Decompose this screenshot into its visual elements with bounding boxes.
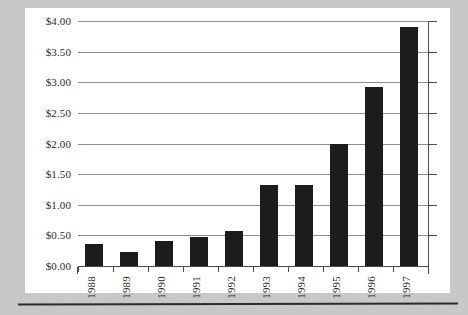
bar (225, 231, 243, 266)
right-axis-tick (428, 113, 437, 114)
right-axis-tick (428, 235, 437, 236)
page-background: $0.00$0.50$1.00$1.50$2.00$2.50$3.00$3.50… (0, 0, 468, 315)
x-axis-tick-label: 1993 (260, 276, 272, 299)
right-axis-tick (428, 205, 437, 206)
x-axis-tick (78, 267, 79, 272)
y-axis-tick-label: $4.00 (46, 15, 71, 27)
x-axis-tick (183, 267, 184, 272)
x-axis-tick-label: 1990 (155, 276, 167, 299)
bottom-horizontal-rule (18, 303, 458, 306)
x-axis-tick (218, 267, 219, 272)
x-axis-right-endcap (428, 267, 429, 274)
x-axis-tick-label: 1989 (120, 276, 132, 299)
right-axis-tick (428, 174, 437, 175)
bar (330, 144, 348, 267)
y-axis-tick-label: $3.00 (46, 76, 71, 88)
right-axis-tick (428, 82, 437, 83)
bar (260, 185, 278, 266)
x-axis-tick (393, 267, 394, 272)
y-axis-tick-label: $0.00 (46, 260, 71, 272)
bar (365, 87, 383, 266)
bars-group (78, 21, 428, 266)
bar-chart-plot-area: $0.00$0.50$1.00$1.50$2.00$2.50$3.00$3.50… (78, 21, 428, 266)
x-axis-tick-label: 1996 (365, 276, 377, 299)
x-axis-tick-label: 1994 (295, 276, 307, 299)
bar (400, 27, 418, 266)
x-axis-tick-label: 1991 (190, 276, 202, 299)
right-axis-tick (428, 144, 437, 145)
x-axis-tick-label: 1992 (225, 276, 237, 299)
y-axis-tick-label: $2.00 (46, 138, 71, 150)
bar (295, 185, 313, 266)
x-axis-tick (323, 267, 324, 272)
y-axis-tick-label: $0.50 (46, 229, 71, 241)
right-axis-tick (428, 21, 437, 22)
x-axis-tick (288, 267, 289, 272)
bar (190, 237, 208, 266)
right-axis-tick (428, 52, 437, 53)
bar (120, 252, 138, 266)
bar (155, 241, 173, 266)
x-axis-tick-label: 1988 (85, 276, 97, 299)
y-axis-tick-label: $1.00 (46, 199, 71, 211)
x-axis-tick (358, 267, 359, 272)
x-axis-left-endcap (77, 267, 78, 274)
x-axis-tick-label: 1997 (400, 276, 412, 299)
bar (85, 244, 103, 266)
y-axis-tick-label: $1.50 (46, 168, 71, 180)
chart-panel: $0.00$0.50$1.00$1.50$2.00$2.50$3.00$3.50… (25, 8, 450, 293)
y-axis-tick-label: $3.50 (46, 46, 71, 58)
x-axis-tick-label: 1995 (330, 276, 342, 299)
x-axis-tick (253, 267, 254, 272)
x-axis-tick (113, 267, 114, 272)
x-axis-tick (148, 267, 149, 272)
y-axis-tick-label: $2.50 (46, 107, 71, 119)
